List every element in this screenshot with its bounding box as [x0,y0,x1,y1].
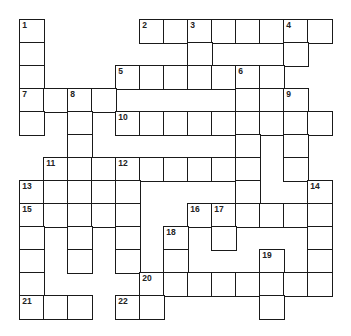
crossword-cell[interactable] [211,157,237,182]
crossword-cell[interactable] [19,226,45,251]
crossword-cell-6[interactable]: 6 [235,65,261,90]
crossword-cell[interactable] [139,65,165,90]
crossword-cell[interactable] [163,249,189,274]
crossword-cell-8[interactable]: 8 [67,88,93,113]
crossword-cell[interactable] [115,180,141,205]
crossword-cell[interactable] [43,88,69,113]
crossword-cell[interactable] [187,65,213,90]
crossword-cell-2[interactable]: 2 [139,19,165,44]
crossword-cell[interactable] [259,295,285,320]
clue-number: 14 [310,182,319,191]
crossword-cell[interactable] [67,226,93,251]
crossword-cell-7[interactable]: 7 [19,88,45,113]
crossword-cell[interactable] [235,180,261,205]
crossword-cell[interactable] [67,157,93,182]
crossword-cell[interactable] [91,180,117,205]
crossword-cell[interactable] [19,65,45,90]
crossword-cell-10[interactable]: 10 [115,111,141,136]
crossword-cell[interactable] [115,249,141,274]
crossword-cell[interactable] [235,203,261,228]
crossword-cell[interactable] [283,134,309,159]
crossword-cell[interactable] [67,249,93,274]
crossword-cell[interactable] [235,272,261,297]
crossword-cell-3[interactable]: 3 [187,19,213,44]
crossword-cell[interactable] [115,226,141,251]
crossword-cell-21[interactable]: 21 [19,295,45,320]
crossword-cell[interactable] [19,42,45,67]
crossword-cell[interactable] [211,65,237,90]
crossword-cell[interactable] [235,134,261,159]
crossword-cell[interactable] [67,180,93,205]
crossword-cell-17[interactable]: 17 [211,203,237,228]
crossword-cell[interactable] [67,295,93,320]
crossword-cell[interactable] [19,249,45,274]
crossword-cell[interactable] [283,157,309,182]
crossword-cell[interactable] [307,272,333,297]
crossword-cell[interactable] [307,203,333,228]
clue-number: 20 [142,274,151,283]
crossword-cell[interactable] [163,19,189,44]
crossword-cell[interactable] [43,180,69,205]
crossword-cell[interactable] [307,249,333,274]
crossword-cell[interactable] [211,226,237,251]
crossword-cell[interactable] [43,295,69,320]
crossword-cell-19[interactable]: 19 [259,249,285,274]
crossword-cell-20[interactable]: 20 [139,272,165,297]
crossword-cell[interactable] [163,157,189,182]
crossword-cell[interactable] [67,134,93,159]
crossword-cell[interactable] [259,203,285,228]
crossword-cell[interactable] [235,88,261,113]
clue-number: 17 [214,205,223,214]
crossword-cell[interactable] [235,111,261,136]
crossword-cell-14[interactable]: 14 [307,180,333,205]
crossword-cell[interactable] [211,19,237,44]
crossword-cell[interactable] [115,203,141,228]
crossword-cell[interactable] [187,42,213,67]
crossword-cell[interactable] [187,272,213,297]
crossword-cell[interactable] [19,111,45,136]
crossword-cell[interactable] [307,111,333,136]
crossword-cell[interactable] [259,272,285,297]
crossword-cell[interactable] [91,157,117,182]
crossword-cell[interactable] [259,88,285,113]
crossword-cell[interactable] [139,111,165,136]
crossword-cell[interactable] [91,88,117,113]
crossword-cell-9[interactable]: 9 [283,88,309,113]
crossword-cell[interactable] [307,226,333,251]
crossword-cell[interactable] [259,19,285,44]
crossword-cell-11[interactable]: 11 [43,157,69,182]
clue-number: 22 [118,297,127,306]
crossword-cell-13[interactable]: 13 [19,180,45,205]
crossword-cell-5[interactable]: 5 [115,65,141,90]
crossword-cell[interactable] [163,111,189,136]
crossword-cell[interactable] [283,42,309,67]
crossword-cell[interactable] [211,111,237,136]
crossword-cell-22[interactable]: 22 [115,295,141,320]
crossword-cell[interactable] [259,65,285,90]
crossword-cell[interactable] [43,203,69,228]
crossword-cell-16[interactable]: 16 [187,203,213,228]
crossword-cell[interactable] [67,203,93,228]
crossword-cell-15[interactable]: 15 [19,203,45,228]
crossword-cell[interactable] [19,272,45,297]
crossword-cell[interactable] [187,157,213,182]
crossword-cell-12[interactable]: 12 [115,157,141,182]
crossword-cell[interactable] [235,19,261,44]
crossword-cell[interactable] [67,111,93,136]
crossword-cell[interactable] [139,157,165,182]
crossword-cell[interactable] [163,65,189,90]
crossword-cell[interactable] [139,295,165,320]
crossword-cell-18[interactable]: 18 [163,226,189,251]
crossword-cell-1[interactable]: 1 [19,19,45,44]
crossword-cell[interactable] [235,157,261,182]
crossword-cell[interactable] [187,111,213,136]
crossword-cell[interactable] [259,111,285,136]
crossword-cell[interactable] [307,19,333,44]
crossword-cell[interactable] [283,272,309,297]
crossword-cell-4[interactable]: 4 [283,19,309,44]
crossword-cell[interactable] [283,203,309,228]
crossword-cell[interactable] [163,272,189,297]
crossword-cell[interactable] [91,203,117,228]
crossword-cell[interactable] [211,272,237,297]
crossword-cell[interactable] [283,111,309,136]
